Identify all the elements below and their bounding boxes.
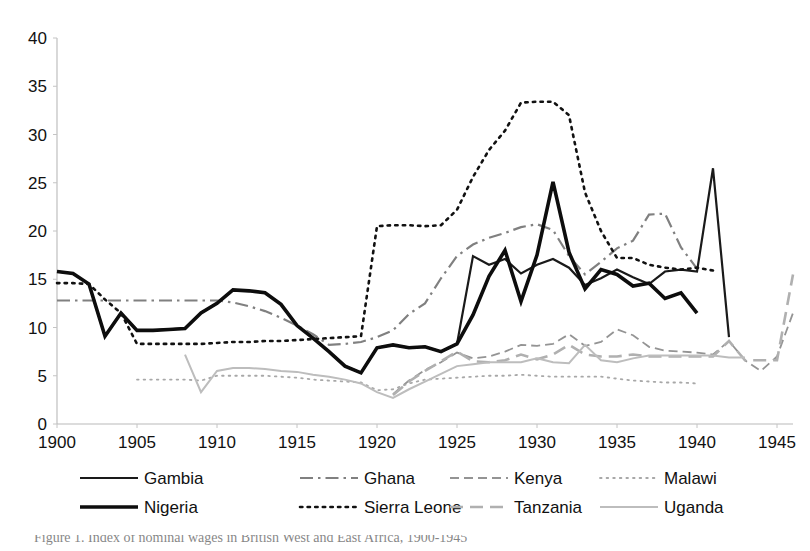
x-tick-label: 1905: [118, 433, 156, 452]
series-line-gambia: [57, 168, 729, 373]
y-tick-label: 20: [28, 222, 47, 241]
series-group: [57, 102, 793, 398]
x-tick-label: 1940: [678, 433, 716, 452]
legend-label-malawi[interactable]: Malawi: [664, 469, 717, 488]
x-tick-label: 1925: [438, 433, 476, 452]
y-tick-label: 40: [28, 29, 47, 48]
y-tick-label: 30: [28, 126, 47, 145]
series-line-tanzania: [393, 274, 793, 395]
x-tick-label: 1915: [278, 433, 316, 452]
legend-label-ghana[interactable]: Ghana: [364, 469, 416, 488]
chart-figure: 4035302520151050190019051910191519201925…: [0, 0, 810, 551]
legend-label-nigeria[interactable]: Nigeria: [144, 498, 198, 517]
y-tick-label: 5: [38, 367, 47, 386]
y-tick-label: 25: [28, 174, 47, 193]
series-line-sierra-leone: [57, 102, 713, 344]
y-tick-label: 0: [38, 415, 47, 434]
legend-label-sierra-leone[interactable]: Sierra Leone: [364, 498, 461, 517]
y-tick-label: 15: [28, 270, 47, 289]
x-tick-label: 1900: [38, 433, 76, 452]
series-line-uganda: [185, 345, 745, 398]
legend-label-tanzania[interactable]: Tanzania: [514, 498, 583, 517]
x-tick-label: 1935: [598, 433, 636, 452]
legend-label-kenya[interactable]: Kenya: [514, 469, 563, 488]
y-tick-label: 35: [28, 77, 47, 96]
figure-caption-text: Figure 1. Index of nominal wages in Brit…: [34, 535, 467, 546]
line-chart: 4035302520151050190019051910191519201925…: [0, 0, 810, 551]
x-tick-label: 1945: [758, 433, 796, 452]
legend-label-gambia[interactable]: Gambia: [144, 469, 204, 488]
figure-caption: Figure 1. Index of nominal wages in Brit…: [0, 535, 810, 551]
legend-label-uganda[interactable]: Uganda: [664, 498, 724, 517]
x-tick-label: 1930: [518, 433, 556, 452]
x-tick-label: 1920: [358, 433, 396, 452]
y-tick-label: 10: [28, 319, 47, 338]
x-tick-label: 1910: [198, 433, 236, 452]
